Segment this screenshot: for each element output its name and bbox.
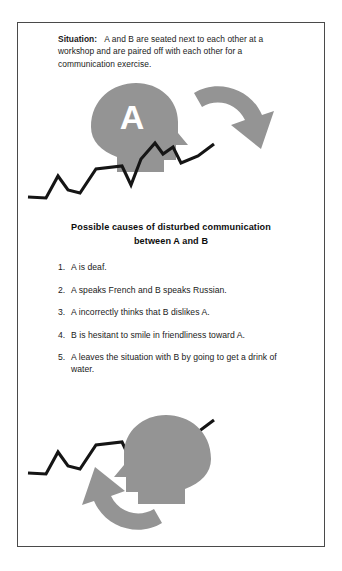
situation-paragraph: Situation: A and B are seated next to ea… (58, 33, 294, 70)
list-item: 1. A is deaf. (58, 261, 289, 273)
list-item-number: 3. (58, 306, 65, 318)
list-item-number: 1. (58, 261, 65, 273)
list-item: 5. A leaves the situation with B by goin… (58, 351, 289, 375)
list-item: 2. A speaks French and B speaks Russian. (58, 284, 289, 296)
head-a-letter: A (120, 98, 145, 136)
arrow-a-to-b-icon (194, 86, 274, 149)
causes-list: 1. A is deaf. 2. A speaks French and B s… (18, 261, 324, 375)
list-item-text: A leaves the situation with B by going t… (71, 352, 277, 374)
list-item-text: A incorrectly thinks that B dislikes A. (71, 307, 210, 317)
list-item-text: A is deaf. (71, 262, 107, 272)
situation-label: Situation: (58, 34, 97, 44)
list-item-number: 2. (58, 284, 65, 296)
figure-frame: Situation: A and B are seated next to ea… (17, 22, 325, 547)
list-item-number: 5. (58, 351, 65, 363)
causes-block: Possible causes of disturbed communicati… (18, 221, 324, 386)
head-b-icon (114, 415, 211, 504)
list-item-number: 4. (58, 329, 65, 341)
scene-person-a: A (18, 71, 324, 216)
causes-heading: Possible causes of disturbed communicati… (18, 221, 324, 248)
head-b-letter: B (217, 436, 242, 474)
list-item-text: A speaks French and B speaks Russian. (71, 285, 227, 295)
list-item-text: B is hesitant to smile in friendliness t… (71, 330, 245, 340)
list-item: 3. A incorrectly thinks that B dislikes … (58, 306, 289, 318)
scene-person-b: B (18, 385, 324, 545)
list-item: 4. B is hesitant to smile in friendlines… (58, 329, 289, 341)
